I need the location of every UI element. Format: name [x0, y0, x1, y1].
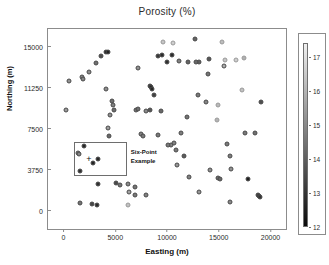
y-axis-tick-label: 3750: [27, 167, 43, 174]
data-point: [245, 176, 250, 181]
data-point: [135, 107, 140, 112]
plot-area: +Six-Point Example: [48, 29, 286, 229]
x-axis-label: Easting (m): [47, 247, 287, 256]
colorbar-tick: 17: [309, 48, 320, 66]
data-point: [172, 140, 177, 145]
colorbar-tick-mark: [309, 125, 311, 126]
data-point: [218, 176, 223, 181]
porosity-scatter-figure: Porosity (%) +Six-Point Example 03750750…: [0, 0, 329, 265]
x-axis-tick-label: 0: [62, 234, 66, 241]
y-axis-tick-mark: [48, 169, 51, 170]
data-point: [195, 93, 200, 98]
x-axis-tick-label: 20000: [261, 234, 280, 241]
colorbar-tick-mark: [309, 193, 311, 194]
data-point: [63, 107, 68, 112]
data-point: [194, 59, 199, 64]
data-point: [243, 131, 248, 136]
x-axis-tick-label: 5000: [107, 234, 123, 241]
data-point: [215, 102, 220, 107]
data-point: [155, 133, 160, 138]
data-point: [179, 130, 184, 135]
x-axis-tick: 0: [62, 229, 66, 241]
data-point: [141, 134, 146, 139]
data-point: [222, 58, 227, 63]
data-point: [224, 141, 229, 146]
x-axis-tick-mark: [115, 229, 116, 232]
y-axis-tick: 7500: [27, 119, 48, 137]
colorbar-tick-mark: [309, 227, 311, 228]
data-point: [103, 86, 108, 91]
example-center-cross-icon: +: [86, 155, 91, 164]
data-point: [259, 99, 264, 104]
data-point: [106, 49, 111, 54]
data-point: [95, 182, 100, 187]
data-point: [169, 53, 174, 58]
y-axis-tick-label: 15000: [24, 44, 43, 51]
data-point: [239, 88, 244, 93]
y-axis-tick: 0: [39, 201, 48, 219]
y-axis-label: Northing (m): [5, 54, 14, 124]
data-point: [107, 113, 112, 118]
data-point: [197, 189, 202, 194]
data-point: [174, 163, 179, 168]
data-point: [177, 59, 182, 64]
data-point: [132, 192, 137, 197]
data-point: [208, 167, 213, 172]
data-point: [234, 57, 239, 62]
colorbar-tick-label: 14: [313, 156, 320, 163]
data-point: [107, 133, 112, 138]
data-point: [241, 55, 246, 60]
y-axis-tick-label: 0: [39, 208, 43, 215]
data-point: [182, 154, 187, 159]
data-point: [86, 70, 91, 75]
y-axis-tick-mark: [48, 46, 51, 47]
data-point: [192, 37, 197, 42]
data-point: [220, 39, 225, 44]
colorbar-tick: 13: [309, 184, 320, 202]
x-axis-tick: 20000: [261, 229, 280, 241]
colorbar-tick: 12: [309, 218, 320, 236]
y-axis-tick-mark: [48, 210, 51, 211]
data-point: [171, 40, 176, 45]
colorbar-tick-label: 13: [313, 190, 320, 197]
colorbar-tick: 14: [309, 150, 320, 168]
data-point: [118, 183, 123, 188]
y-axis-tick: 3750: [27, 160, 48, 178]
y-axis-tick: 11250: [24, 78, 48, 96]
data-point: [159, 108, 164, 113]
data-point: [149, 87, 154, 92]
data-point: [105, 125, 110, 130]
x-axis-tick-mark: [270, 229, 271, 232]
data-point: [94, 60, 99, 65]
x-axis-tick-mark: [63, 229, 64, 232]
data-point: [66, 78, 71, 83]
data-point: [160, 39, 165, 44]
data-point: [143, 192, 148, 197]
colorbar-tick-label: 12: [313, 224, 320, 231]
data-point: [184, 114, 189, 119]
x-axis-tick: 10000: [157, 229, 176, 241]
data-point: [147, 108, 152, 113]
plot-frame: +Six-Point Example 037507500112501500005…: [47, 28, 287, 230]
data-point: [207, 57, 212, 62]
data-point: [257, 194, 262, 199]
colorbar-tick-label: 17: [313, 54, 320, 61]
data-point: [125, 202, 130, 207]
colorbar: 121314151617: [298, 33, 326, 235]
y-axis-tick: 15000: [24, 37, 48, 55]
data-point: [98, 53, 103, 58]
data-point: [81, 76, 86, 81]
data-point: [152, 93, 157, 98]
x-axis-tick-mark: [167, 229, 168, 232]
data-point: [165, 143, 170, 148]
y-axis-tick-mark: [48, 87, 51, 88]
data-point: [112, 107, 117, 112]
colorbar-gradient: [303, 43, 308, 227]
y-axis-tick-mark: [48, 128, 51, 129]
colorbar-tick-mark: [309, 91, 311, 92]
six-point-example-box: [74, 142, 127, 176]
data-point: [132, 185, 137, 190]
data-point: [221, 64, 226, 69]
data-point: [78, 200, 83, 205]
data-point: [186, 59, 191, 64]
